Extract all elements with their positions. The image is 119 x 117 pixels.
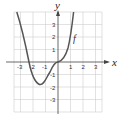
svg-text:1: 1 xyxy=(69,64,73,70)
curve-label-f: f xyxy=(73,33,77,44)
curve-f xyxy=(17,12,74,85)
x-axis-label: x xyxy=(111,56,117,68)
svg-text:-3: -3 xyxy=(17,64,23,70)
svg-text:2: 2 xyxy=(82,64,86,70)
svg-text:-1: -1 xyxy=(42,64,48,70)
graph: x y -3 -2 -1 1 2 3 3 2 1 -1 -2 -3 f xyxy=(0,0,119,117)
y-axis-label: y xyxy=(54,0,60,11)
svg-text:-1: -1 xyxy=(50,72,56,78)
svg-text:3: 3 xyxy=(94,64,98,70)
x-axis-arrow-icon xyxy=(104,60,110,64)
svg-text:-2: -2 xyxy=(50,85,56,91)
svg-text:-3: -3 xyxy=(50,97,56,103)
